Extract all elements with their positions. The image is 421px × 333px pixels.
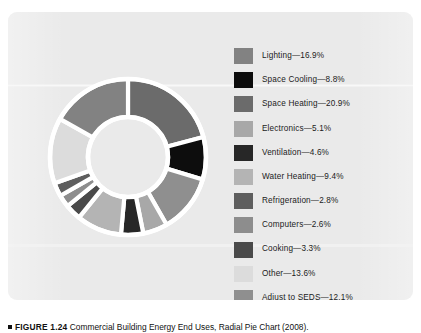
figure-label: FIGURE 1.24 <box>15 322 67 332</box>
legend-label: Cooking—3.3% <box>262 245 321 253</box>
figure-caption-text: Commercial Building Energy End Uses, Rad… <box>70 322 309 332</box>
legend-label: Adjust to SEDS—12.1% <box>262 294 353 300</box>
chart-legend: Lighting—16.9%Space Cooling—8.8%Space He… <box>234 44 406 300</box>
legend-item: Computers—2.6% <box>234 213 406 237</box>
donut-chart-svg <box>22 42 232 272</box>
legend-swatch <box>234 242 253 258</box>
legend-item: Cooking—3.3% <box>234 238 406 262</box>
legend-label: Water Heating—9.4% <box>262 173 344 181</box>
legend-swatch <box>234 217 253 233</box>
legend-swatch <box>234 72 253 88</box>
legend-swatch <box>234 290 253 300</box>
legend-swatch <box>234 266 253 282</box>
legend-label: Computers—2.6% <box>262 221 331 229</box>
legend-item: Space Heating—20.9% <box>234 92 406 116</box>
legend-swatch <box>234 193 253 209</box>
legend-swatch <box>234 96 253 112</box>
legend-item: Other—13.6% <box>234 262 406 286</box>
legend-item: Water Heating—9.4% <box>234 165 406 189</box>
legend-swatch <box>234 145 253 161</box>
legend-label: Refrigeration—2.8% <box>262 197 338 205</box>
legend-label: Space Cooling—8.8% <box>262 76 345 84</box>
figure-screenshot: Lighting—16.9%Space Cooling—8.8%Space He… <box>0 0 421 333</box>
legend-swatch <box>234 121 253 137</box>
legend-item: Refrigeration—2.8% <box>234 189 406 213</box>
legend-label: Electronics—5.1% <box>262 125 331 133</box>
legend-label: Lighting—16.9% <box>262 52 324 60</box>
donut-inner-ring <box>88 117 168 197</box>
legend-item: Ventilation—4.6% <box>234 141 406 165</box>
legend-swatch <box>234 169 253 185</box>
legend-label: Ventilation—4.6% <box>262 149 329 157</box>
legend-item: Electronics—5.1% <box>234 117 406 141</box>
figure-caption: FIGURE 1.24 Commercial Building Energy E… <box>8 322 418 333</box>
legend-label: Other—13.6% <box>262 270 316 278</box>
donut-chart <box>22 42 232 272</box>
legend-item: Adjust to SEDS—12.1% <box>234 286 406 300</box>
legend-item: Space Cooling—8.8% <box>234 68 406 92</box>
legend-label: Space Heating—20.9% <box>262 100 350 108</box>
square-bullet-icon <box>8 325 12 329</box>
legend-item: Lighting—16.9% <box>234 44 406 68</box>
figure-panel: Lighting—16.9%Space Cooling—8.8%Space He… <box>8 12 413 300</box>
legend-swatch <box>234 48 253 64</box>
